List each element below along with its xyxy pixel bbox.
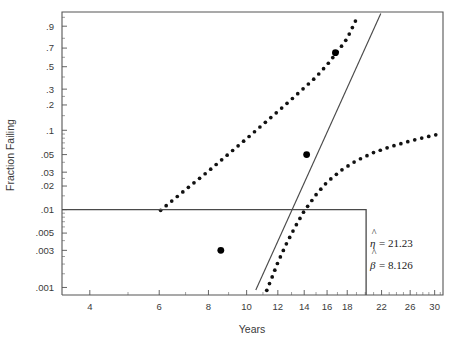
beta-symbol: β	[369, 259, 376, 271]
y-tick-label: .2	[46, 99, 54, 110]
confidence-band-dot	[340, 168, 344, 172]
confidence-band-dot	[296, 92, 300, 96]
confidence-band-dot	[347, 32, 351, 36]
confidence-band-dot	[312, 77, 316, 81]
data-point-marker	[217, 247, 224, 254]
confidence-band-dot	[385, 146, 389, 150]
confidence-band-dot	[351, 26, 355, 30]
y-axis-title: Fraction Failing	[4, 119, 16, 191]
confidence-band-dot	[276, 262, 280, 266]
confidence-band-dot	[253, 130, 257, 134]
confidence-band-dot	[291, 229, 295, 233]
confidence-band-dot	[209, 167, 213, 171]
confidence-band-dot	[301, 87, 305, 91]
x-tick-label: 26	[405, 301, 416, 312]
confidence-band-dot	[265, 288, 269, 292]
confidence-band-dot	[187, 186, 191, 190]
confidence-band-dot	[365, 154, 369, 158]
confidence-band-dot	[346, 164, 350, 168]
chart-canvas: .9.7.5.3.2.1.05.03.02.01.005.003.001 468…	[0, 0, 459, 341]
confidence-band-dot	[317, 72, 321, 76]
confidence-band-dot	[225, 153, 229, 157]
eta-value-text: = 21.23	[379, 237, 413, 249]
y-tick-label: .001	[36, 282, 55, 293]
confidence-band-dot	[344, 38, 348, 42]
confidence-band-dot	[285, 242, 289, 246]
confidence-band-dot	[258, 125, 262, 129]
confidence-band-dot	[352, 160, 356, 164]
confidence-band-dot	[214, 163, 218, 167]
confidence-band-dot	[324, 182, 328, 186]
x-tick-label: 4	[87, 301, 92, 312]
y-tick-label: .02	[41, 180, 54, 191]
data-point-marker	[332, 49, 339, 56]
x-tick-label: 22	[376, 301, 387, 312]
confidence-band-dot	[274, 111, 278, 115]
confidence-band-dot	[399, 142, 403, 146]
weibull-probability-plot: .9.7.5.3.2.1.05.03.02.01.005.003.001 468…	[0, 0, 459, 341]
confidence-band-dot	[335, 173, 339, 177]
confidence-band-dot	[298, 217, 302, 221]
confidence-band-dot	[329, 177, 333, 181]
confidence-band-dot	[306, 204, 310, 208]
data-point-marker	[303, 151, 310, 158]
x-tick-label: 14	[299, 301, 310, 312]
y-tick-label: .1	[46, 125, 54, 136]
confidence-band-dot	[413, 138, 417, 142]
confidence-band-dot	[236, 144, 240, 148]
confidence-band-dot	[231, 149, 235, 153]
confidence-band-dot	[170, 199, 174, 203]
x-tick-label: 18	[342, 301, 353, 312]
confidence-band-dot	[269, 116, 273, 120]
y-tick-label: .005	[36, 227, 55, 238]
confidence-band-dot	[181, 190, 185, 194]
confidence-band-dot	[288, 236, 292, 240]
confidence-band-dot	[242, 139, 246, 143]
confidence-band-dot	[268, 282, 272, 286]
y-tick-label: .3	[46, 84, 54, 95]
confidence-band-dot	[359, 157, 363, 161]
confidence-band-dot	[406, 140, 410, 144]
confidence-band-dot	[340, 44, 344, 48]
confidence-band-dot	[420, 136, 424, 140]
confidence-band-dot	[273, 268, 277, 272]
x-tick-label: 6	[157, 301, 162, 312]
confidence-band-dot	[331, 56, 335, 60]
confidence-band-dot	[372, 151, 376, 155]
y-tick-label: .01	[41, 204, 54, 215]
y-tick-label: .9	[46, 21, 54, 32]
chart-background	[0, 0, 459, 341]
confidence-band-dot	[220, 158, 224, 162]
confidence-band-dot	[295, 223, 299, 227]
beta-hat-caret: ^	[372, 247, 377, 258]
confidence-band-dot	[192, 181, 196, 185]
y-tick-label: .05	[41, 149, 54, 160]
y-tick-label: .5	[46, 61, 54, 72]
confidence-band-dot	[281, 249, 285, 253]
x-tick-label: 12	[273, 301, 284, 312]
confidence-band-dot	[378, 148, 382, 152]
y-tick-label: .7	[46, 42, 54, 53]
x-axis-title: Years	[239, 323, 265, 335]
beta-value-text: = 8.126	[379, 259, 413, 271]
confidence-band-dot	[314, 193, 318, 197]
confidence-band-dot	[247, 135, 251, 139]
confidence-band-dot	[392, 144, 396, 148]
confidence-band-dot	[198, 176, 202, 180]
confidence-band-dot	[310, 199, 314, 203]
confidence-band-dot	[307, 82, 311, 86]
x-tick-label: 10	[241, 301, 252, 312]
confidence-band-dot	[354, 19, 358, 23]
confidence-band-dot	[434, 133, 438, 137]
confidence-band-dot	[264, 120, 268, 124]
confidence-band-dot	[270, 275, 274, 279]
confidence-band-dot	[326, 61, 330, 65]
x-tick-label: 8	[206, 301, 211, 312]
y-tick-label: .03	[41, 167, 54, 178]
x-tick-label: 16	[322, 301, 333, 312]
confidence-band-dot	[278, 255, 282, 259]
confidence-band-dot	[291, 97, 295, 101]
y-tick-label: .003	[36, 245, 55, 256]
confidence-band-dot	[280, 106, 284, 110]
confidence-band-dot	[203, 172, 207, 176]
